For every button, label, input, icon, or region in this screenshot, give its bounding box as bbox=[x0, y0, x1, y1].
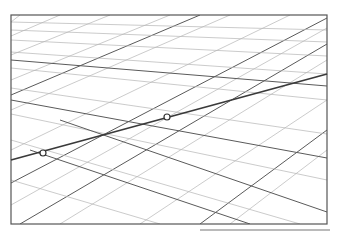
point-b-marker bbox=[164, 114, 170, 120]
point-a-marker bbox=[40, 150, 46, 156]
perspective-grid-diagram bbox=[0, 0, 337, 232]
